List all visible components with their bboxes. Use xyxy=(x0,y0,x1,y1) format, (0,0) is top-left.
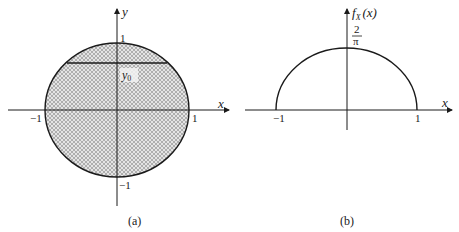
tick-left-a: −1 xyxy=(30,112,42,124)
figure: y x 1 −1 1 −1 y0 (a) fX(x) 2 π −1 1 x (b… xyxy=(0,0,459,232)
peak-denominator: π xyxy=(353,35,359,47)
tick-right-a: 1 xyxy=(192,112,198,124)
y-axis-label-b: fX(x) xyxy=(352,5,377,22)
x-axis-label-a: x xyxy=(217,96,224,111)
y-axis-label-a: y xyxy=(120,4,128,19)
tick-right-b: 1 xyxy=(415,112,421,124)
tick-top-a: 1 xyxy=(120,32,126,44)
panel-a: y x 1 −1 1 −1 y0 (a) xyxy=(8,4,229,228)
tick-left-b: −1 xyxy=(273,112,285,124)
caption-b: (b) xyxy=(340,214,354,228)
peak-numerator: 2 xyxy=(354,23,360,35)
panel-b: fX(x) 2 π −1 1 x (b) xyxy=(245,5,452,228)
x-axis-label-b: x xyxy=(441,95,448,110)
tick-bottom-a: −1 xyxy=(119,179,131,191)
caption-a: (a) xyxy=(128,214,141,228)
